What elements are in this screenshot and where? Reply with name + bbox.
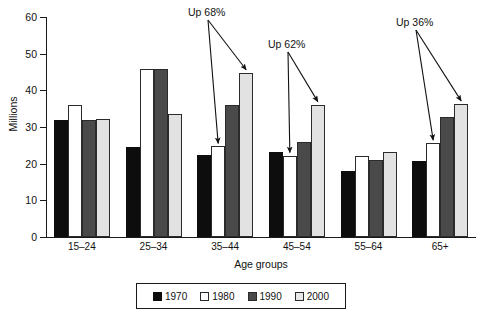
legend-label-1980: 1980 [212,291,234,302]
bar-1980-55_64 [355,156,369,237]
bar-1990-55_64 [369,160,383,237]
bar-1990-35_44 [225,105,239,237]
x-axis-line [46,237,476,238]
bar-1980-65+ [426,143,440,237]
bar-1980-45_54 [283,156,297,237]
bar-1970-45_54 [269,152,283,237]
annotation-label-1: Up 68% [188,6,225,18]
legend-label-2000: 2000 [307,291,329,302]
legend-item[interactable]: 1980 [200,291,234,302]
bar-2000-65+ [454,104,468,237]
legend-swatch-2000 [295,292,304,301]
bar-1990-45_54 [297,142,311,237]
bar-1980-35_44 [211,146,225,237]
y-axis-tick-label: 0 [0,232,37,243]
x-axis-tick-label: 55–64 [333,241,405,252]
legend-item[interactable]: 2000 [295,291,329,302]
x-axis-tick-label: 25–34 [118,241,190,252]
x-axis-label: Age groups [46,258,476,270]
y-axis-tick-label: 50 [0,49,37,60]
y-axis-tick-label: 20 [0,159,37,170]
legend-item[interactable]: 1990 [248,291,282,302]
bar-1970-65+ [412,161,426,237]
bar-1990-25_34 [154,69,168,237]
bar-1970-55_64 [341,171,355,237]
legend-swatch-1990 [248,292,257,301]
y-axis-tick [40,237,47,238]
x-axis-tick-label: 35–44 [189,241,261,252]
legend-swatch-1980 [200,292,209,301]
bar-1970-15_24 [54,120,68,237]
plot-area [46,17,476,237]
bar-2000-15_24 [96,119,110,237]
bar-1980-25_34 [140,69,154,237]
bar-2000-35_44 [239,73,253,237]
legend: 1970 1980 1990 2000 [136,283,346,309]
y-axis-tick-label: 60 [0,12,37,23]
bar-1990-15_24 [82,120,96,237]
x-axis-tick-label: 15–24 [46,241,118,252]
bar-2000-55_64 [383,152,397,237]
bar-1970-35_44 [197,155,211,237]
bar-2000-45_54 [311,105,325,237]
annotation-label-3: Up 36% [396,16,433,28]
legend-label-1990: 1990 [260,291,282,302]
y-axis-tick-label: 10 [0,195,37,206]
y-axis-label: Millions [7,84,19,144]
legend-label-1970: 1970 [165,291,187,302]
annotation-label-2: Up 62% [268,38,305,50]
bar-1980-15_24 [68,105,82,237]
bar-2000-25_34 [168,114,182,237]
x-axis-tick-label: 65+ [404,241,476,252]
x-axis-tick-label: 45–54 [261,241,333,252]
legend-swatch-1970 [153,292,162,301]
legend-item[interactable]: 1970 [153,291,187,302]
bar-1970-25_34 [126,147,140,237]
bar-chart-figure: 6050403020100 Millions Age groups 15–242… [0,0,490,326]
bar-1990-65+ [440,117,454,237]
